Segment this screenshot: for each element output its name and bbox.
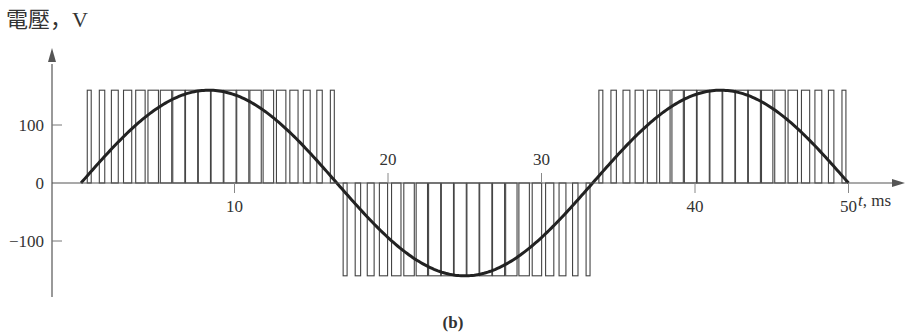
- pwm-pulse: [788, 90, 797, 183]
- pwm-pulse: [367, 183, 374, 276]
- pwm-pulse: [599, 90, 603, 183]
- pwm-pulse: [748, 90, 760, 183]
- y-axis-label: 電壓，V: [6, 7, 88, 32]
- y-axis-arrow-icon: [48, 48, 56, 62]
- pwm-pulse: [330, 90, 334, 183]
- pwm-voltage-chart: 1020304050 1000−100 電壓，V t, ms (b): [0, 0, 912, 335]
- y-tick-label: −100: [9, 232, 44, 251]
- pwm-pulse: [828, 90, 833, 183]
- pwm-pulse: [343, 183, 347, 276]
- figure-caption: (b): [443, 313, 464, 332]
- pwm-pulse: [815, 90, 822, 183]
- x-tick-label: 50: [840, 197, 857, 216]
- pwm-pulse: [392, 183, 401, 276]
- pwm-pulse: [263, 90, 273, 183]
- pwm-pulse: [99, 90, 104, 183]
- pwm-pulse: [303, 90, 310, 183]
- pwm-pulse: [441, 183, 453, 276]
- pwm-pulse: [198, 90, 210, 183]
- x-tick-label: 40: [687, 197, 704, 216]
- pwm-pulse: [710, 90, 722, 183]
- pwm-pulse: [87, 90, 91, 183]
- pwm-pulse: [404, 183, 414, 276]
- x-axis-label-unit: , ms: [863, 191, 891, 210]
- pwm-pulse: [224, 90, 236, 183]
- x-axis-label: t, ms: [858, 191, 891, 210]
- pwm-pulse: [684, 90, 696, 183]
- pwm-pulse: [660, 90, 670, 183]
- pwm-pulse: [276, 90, 285, 183]
- pwm-pulse: [467, 183, 479, 276]
- x-tick-label: 20: [380, 150, 397, 169]
- pwm-pulse: [519, 183, 529, 276]
- pwm-pulse: [454, 183, 466, 276]
- y-tick-label: 0: [36, 174, 45, 193]
- pwm-pulse: [736, 90, 748, 183]
- y-tick-label: 100: [19, 116, 45, 135]
- pwm-pulse: [647, 90, 656, 183]
- pwm-pulse: [723, 90, 735, 183]
- pwm-pulse: [559, 183, 566, 276]
- x-tick-label: 10: [226, 197, 243, 216]
- pwm-pulse: [148, 90, 158, 183]
- x-tick-label: 30: [533, 150, 550, 169]
- pwm-pulse: [136, 90, 145, 183]
- pwm-pulse: [480, 183, 492, 276]
- pwm-pulse: [842, 90, 846, 183]
- pwm-pulse: [532, 183, 541, 276]
- pwm-pulse: [317, 90, 322, 183]
- pwm-pulse: [429, 183, 441, 276]
- x-axis-arrow-icon: [892, 179, 905, 187]
- pwm-pulse: [186, 90, 198, 183]
- pwm-pulse: [355, 183, 360, 276]
- pwm-pulse: [586, 183, 590, 276]
- pwm-pulse: [623, 90, 630, 183]
- pwm-pulse: [493, 183, 505, 276]
- pwm-pulse: [173, 90, 185, 183]
- pwm-pulse: [111, 90, 118, 183]
- pwm-pulse: [775, 90, 785, 183]
- pwm-pulse: [211, 90, 223, 183]
- pwm-pulse: [611, 90, 616, 183]
- pwm-pulse: [573, 183, 578, 276]
- pwm-pulse: [237, 90, 249, 183]
- pwm-pulse: [697, 90, 709, 183]
